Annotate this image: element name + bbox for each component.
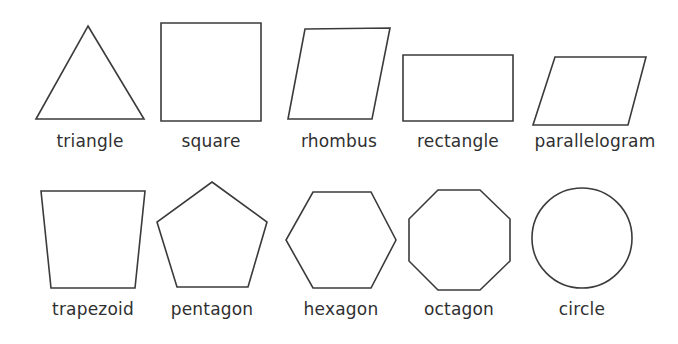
label-rectangle: rectangle <box>388 131 528 151</box>
shape-rhombus <box>288 28 390 119</box>
shapes-worksheet: triangle square rhombus rectangle parall… <box>0 0 678 344</box>
label-octagon: octagon <box>389 299 529 319</box>
label-triangle: triangle <box>20 131 160 151</box>
label-circle: circle <box>512 299 652 319</box>
shape-canvas <box>0 0 678 344</box>
shape-triangle <box>36 26 144 119</box>
label-pentagon: pentagon <box>142 299 282 319</box>
shape-pentagon <box>157 182 267 287</box>
shape-octagon <box>409 190 510 290</box>
shape-rectangle <box>403 55 513 121</box>
shape-circle <box>532 188 632 288</box>
label-square: square <box>141 131 281 151</box>
label-parallelogram: parallelogram <box>520 131 670 151</box>
shape-hexagon <box>286 192 396 288</box>
shape-trapezoid <box>41 191 145 288</box>
shape-square <box>161 23 261 121</box>
shape-parallelogram <box>533 57 646 125</box>
